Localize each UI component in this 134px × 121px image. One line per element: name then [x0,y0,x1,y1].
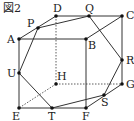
vertex-label-A: A [7,34,15,45]
vertex-dot-C [120,14,124,18]
vertex-label-D: D [53,3,62,14]
vertex-label-Q: Q [85,3,94,14]
vertex-label-S: S [101,97,109,108]
vertex-label-T: T [48,111,55,121]
section-edge-TU [19,73,52,108]
vertex-dot-R [120,58,124,62]
vertex-label-G: G [126,79,134,90]
vertex-dot-G [120,82,124,86]
vertex-dot-U [17,71,21,75]
vertex-dot-A [17,37,21,41]
cube-diagram [0,0,134,121]
vertex-label-P: P [27,18,34,29]
hidden-edge-HE [19,84,56,108]
vertex-dot-P [36,26,40,30]
vertex-label-B: B [88,40,96,51]
vertex-label-H: H [57,71,67,82]
section-edge-QR [89,16,122,60]
vertex-label-R: R [126,55,134,66]
cube-edges [19,16,122,108]
section-edge-UP [19,28,38,73]
vertex-label-E: E [12,111,20,121]
vertex-label-U: U [7,68,16,79]
vertex-label-C: C [126,10,134,21]
vertex-label-F: F [82,111,90,121]
